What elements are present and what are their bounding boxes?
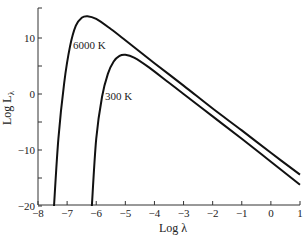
y-axis-label: Log Lλ [0, 90, 16, 125]
x-tick-label: −3 [178, 207, 190, 219]
y-tick-label: −20 [18, 200, 36, 212]
x-axis-label: Log λ [159, 221, 187, 235]
x-tick-label: −1 [236, 207, 248, 219]
x-tick-label: −4 [149, 207, 161, 219]
x-tick-label: −5 [119, 207, 131, 219]
x-tick-label: −6 [90, 207, 102, 219]
curve-300-k [92, 55, 300, 206]
y-tick-label: 10 [24, 32, 36, 44]
y-tick-label: 0 [30, 88, 36, 100]
x-tick-label: 0 [268, 207, 274, 219]
curve-annotation: 6000 K [73, 39, 106, 51]
chart-svg: −8−7−6−5−4−3−2−101−20−10010 6000 K300 K … [0, 0, 306, 240]
x-tick-label: −7 [61, 207, 73, 219]
x-tick-label: 1 [297, 207, 303, 219]
y-tick-label: −10 [18, 144, 36, 156]
blackbody-luminosity-chart: −8−7−6−5−4−3−2−101−20−10010 6000 K300 K … [0, 0, 306, 240]
curve-annotation: 300 K [105, 90, 132, 102]
x-tick-label: −2 [207, 207, 219, 219]
